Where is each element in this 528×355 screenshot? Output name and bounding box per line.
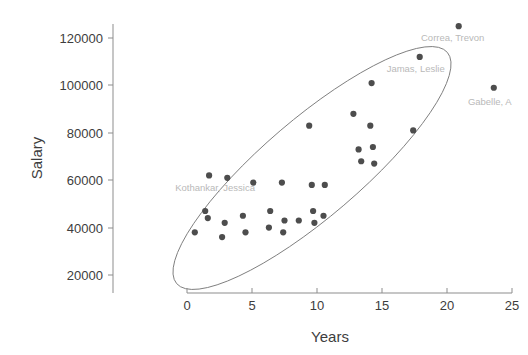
point-annotation-label: Correa, Trevon	[421, 32, 484, 43]
data-point	[356, 146, 362, 152]
data-point	[202, 208, 208, 214]
data-point	[369, 80, 375, 86]
data-point	[456, 23, 462, 29]
data-point	[224, 175, 230, 181]
data-point	[222, 220, 228, 226]
plot-canvas: 120000 100000 80000 60000 40000 20000 0 …	[0, 0, 528, 355]
data-point	[296, 217, 302, 223]
point-annotation-label: Kothankar, Jessica	[175, 182, 255, 193]
data-point	[370, 144, 376, 150]
y-axis-tick-labels: 120000 100000 80000 60000 40000 20000	[60, 31, 103, 283]
data-point	[410, 127, 416, 133]
data-point	[310, 208, 316, 214]
data-points-layer	[192, 23, 497, 240]
y-axis-ticks	[108, 38, 113, 275]
x-tick-label-25: 25	[505, 298, 519, 313]
data-point	[371, 161, 377, 167]
confidence-ellipse	[145, 15, 479, 321]
data-point	[309, 182, 315, 188]
scatter-plot-figure: 120000 100000 80000 60000 40000 20000 0 …	[0, 0, 528, 355]
data-point	[205, 215, 211, 221]
data-point	[206, 172, 212, 178]
data-point	[350, 111, 356, 117]
point-annotations-layer: Correa, TrevonJamas, LeslieGabelle, AKot…	[175, 32, 512, 193]
x-axis-tick-labels: 0 5 10 15 20 25	[183, 298, 519, 313]
y-axis-title: Salary	[28, 136, 45, 179]
data-point	[192, 229, 198, 235]
y-tick-label-40000: 40000	[67, 221, 103, 236]
x-axis-ticks	[187, 288, 512, 293]
x-tick-label-20: 20	[440, 298, 454, 313]
data-point	[240, 213, 246, 219]
x-tick-label-0: 0	[183, 298, 190, 313]
point-annotation-label: Gabelle, A	[468, 96, 512, 107]
data-point	[219, 234, 225, 240]
x-axis-title: Years	[311, 328, 349, 345]
data-point	[311, 220, 317, 226]
y-tick-label-80000: 80000	[67, 126, 103, 141]
data-point	[279, 179, 285, 185]
data-point	[281, 217, 287, 223]
x-tick-label-10: 10	[310, 298, 324, 313]
confidence-ellipse-group	[145, 15, 479, 321]
data-point	[320, 213, 326, 219]
data-point	[280, 229, 286, 235]
data-point	[242, 229, 248, 235]
data-point	[306, 123, 312, 129]
data-point	[358, 158, 364, 164]
y-tick-label-100000: 100000	[60, 78, 103, 93]
data-point	[417, 54, 423, 60]
y-tick-label-20000: 20000	[67, 268, 103, 283]
data-point	[367, 123, 373, 129]
y-tick-label-60000: 60000	[67, 173, 103, 188]
y-tick-label-120000: 120000	[60, 31, 103, 46]
x-tick-label-5: 5	[248, 298, 255, 313]
data-point	[266, 225, 272, 231]
data-point	[491, 85, 497, 91]
data-point	[322, 182, 328, 188]
x-tick-label-15: 15	[375, 298, 389, 313]
point-annotation-label: Jamas, Leslie	[387, 63, 445, 74]
data-point	[267, 208, 273, 214]
